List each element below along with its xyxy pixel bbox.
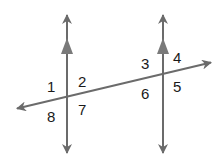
parallel-lines-transversal-diagram: 1 2 8 7 3 4 6 5 bbox=[0, 0, 221, 159]
angle-label-7: 7 bbox=[78, 101, 86, 118]
angle-label-8: 8 bbox=[47, 108, 55, 125]
angle-label-5: 5 bbox=[173, 78, 181, 95]
angle-label-4: 4 bbox=[173, 49, 181, 66]
angle-label-6: 6 bbox=[141, 85, 149, 102]
angle-label-3: 3 bbox=[141, 55, 149, 72]
angle-label-2: 2 bbox=[78, 73, 86, 90]
right-parallel-marker-icon bbox=[157, 38, 169, 54]
angle-label-1: 1 bbox=[47, 78, 55, 95]
left-parallel-marker-icon bbox=[61, 38, 73, 54]
